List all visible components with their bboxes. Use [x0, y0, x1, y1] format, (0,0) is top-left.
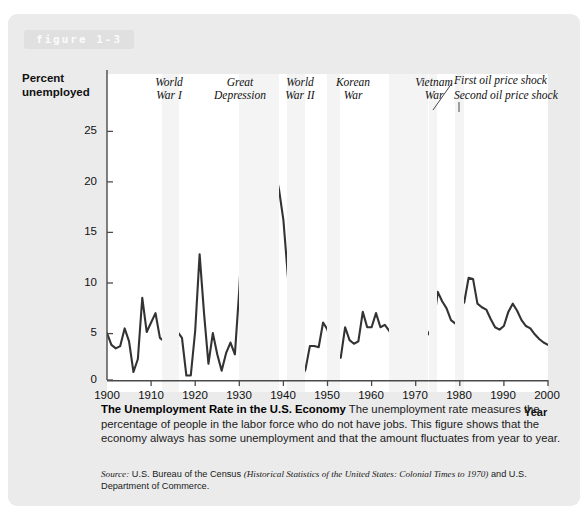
annotation-leader-lines [428, 80, 558, 114]
figure-panel: figure 1-3 Percentunemployed [8, 14, 580, 506]
figure-source: Source: U.S. Bureau of the Census (Histo… [101, 469, 567, 492]
x-tick-1900: 1900 [85, 389, 129, 401]
x-tick-1970: 1970 [393, 389, 437, 401]
y-tick-15: 15 [67, 225, 97, 237]
x-tick-1950: 1950 [305, 389, 349, 401]
annotation-korean-war: Korean War [324, 76, 382, 102]
x-tick-1960: 1960 [349, 389, 393, 401]
y-tick-25: 25 [67, 124, 97, 136]
x-tick-2000: 2000 [525, 389, 569, 401]
x-tick-1920: 1920 [173, 389, 217, 401]
annotation-world-war-i: World War I [139, 76, 199, 102]
y-tick-5: 5 [67, 326, 97, 338]
x-tick-1940: 1940 [261, 389, 305, 401]
figure-caption: The Unemployment Rate in the U.S. Econom… [101, 402, 567, 446]
y-tick-10: 10 [67, 276, 97, 288]
caption-title: The Unemployment Rate in the U.S. Econom… [101, 403, 346, 415]
y-tick-20: 20 [67, 175, 97, 187]
figure-number-tag: figure 1-3 [24, 30, 134, 49]
source-label: Source: [101, 469, 129, 479]
x-tick-1910: 1910 [129, 389, 173, 401]
y-tick-0: 0 [67, 373, 97, 385]
x-tick-1930: 1930 [217, 389, 261, 401]
x-tick-1980: 1980 [437, 389, 481, 401]
x-tick-1990: 1990 [481, 389, 525, 401]
y-axis-title: Percentunemployed [22, 72, 106, 99]
source-title: (Historical Statistics of the United Sta… [244, 469, 489, 479]
chart-area: Percentunemployed [8, 62, 580, 392]
annotation-great-depression: Great Depression [204, 76, 276, 102]
annotation-world-war-ii: World War II [273, 76, 327, 102]
source-text-1: U.S. Bureau of the Census [129, 469, 243, 479]
